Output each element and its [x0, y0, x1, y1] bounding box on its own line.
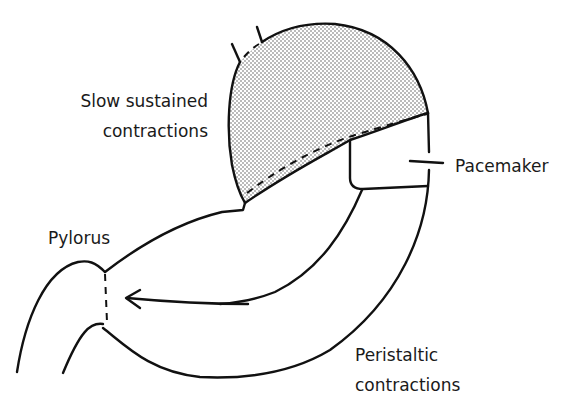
label-peristaltic-line2: contractions — [355, 370, 460, 397]
lesser-curvature — [105, 203, 245, 272]
esophagus-tick-left — [232, 44, 240, 62]
label-slow-sustained: Slow sustained contractions — [56, 86, 208, 146]
antrum-inner-curve — [220, 190, 362, 304]
label-slow-sustained-line1: Slow sustained — [56, 86, 208, 116]
label-peristaltic-line1: Peristaltic — [355, 340, 460, 370]
label-pylorus: Pylorus — [48, 223, 110, 253]
pacemaker-marker — [410, 161, 443, 163]
duodenum-upper — [17, 261, 105, 372]
label-pacemaker: Pacemaker — [455, 151, 548, 181]
label-slow-sustained-line2: contractions — [56, 116, 208, 146]
label-peristaltic: Peristaltic contractions — [355, 340, 460, 397]
peristalsis-arrow — [127, 298, 248, 304]
esophagus-tick-right — [257, 27, 262, 42]
pylorus-sphincter — [105, 274, 107, 322]
duodenum-lower — [63, 324, 103, 373]
stomach-diagram — [0, 0, 567, 397]
greater-curvature-upper — [428, 113, 429, 152]
body-inner-fold — [350, 140, 428, 189]
fundus-region — [229, 24, 428, 203]
